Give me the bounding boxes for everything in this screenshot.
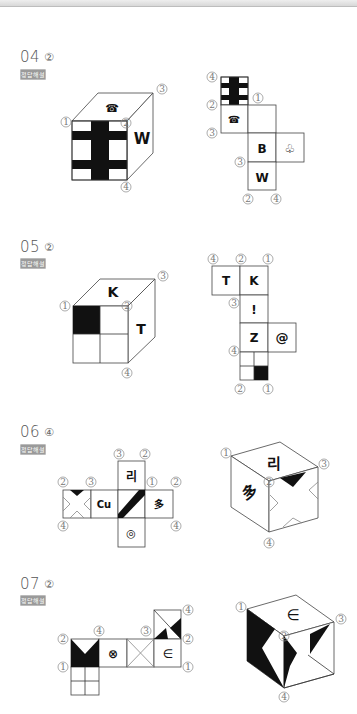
svg-text:4: 4 (96, 626, 102, 636)
svg-text:2: 2 (185, 634, 191, 644)
svg-text:∈: ∈ (163, 647, 173, 661)
svg-text:2: 2 (60, 634, 66, 644)
svg-text:1: 1 (238, 602, 244, 612)
cube-diagram-07: ⊗ ∈ 2 4 3 4 2 1 1 ∈ 1 2 3 4 (0, 0, 357, 714)
svg-text:3: 3 (143, 626, 149, 636)
svg-text:1: 1 (60, 662, 66, 672)
svg-text:∈: ∈ (286, 606, 299, 624)
svg-text:1: 1 (185, 662, 191, 672)
svg-text:4: 4 (281, 692, 287, 702)
svg-text:⊗: ⊗ (108, 647, 118, 661)
svg-text:4: 4 (185, 605, 191, 615)
svg-text:3: 3 (338, 614, 344, 624)
svg-text:2: 2 (281, 631, 287, 641)
